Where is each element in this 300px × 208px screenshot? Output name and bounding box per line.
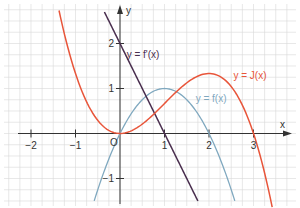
x-tick-label: −1 bbox=[70, 140, 82, 151]
x-tick-label: 1 bbox=[162, 140, 168, 151]
curves bbox=[59, 10, 272, 207]
label-f: y = f(x) bbox=[196, 93, 227, 104]
curve-j bbox=[59, 10, 272, 207]
x-axis-label: x bbox=[280, 119, 285, 130]
curve-f-prime bbox=[104, 12, 197, 201]
x-tick-label: 2 bbox=[206, 140, 212, 151]
y-tick-label: −1 bbox=[103, 173, 115, 184]
y-axis-label: y bbox=[126, 5, 131, 16]
y-tick-label: 1 bbox=[108, 83, 114, 94]
function-graph: −2−1123−112Oxyy = f'(x)y = J(x)y = f(x) bbox=[0, 0, 300, 208]
label-j: y = J(x) bbox=[233, 70, 266, 81]
y-tick-label: 2 bbox=[108, 38, 114, 49]
x-axis-arrow-icon bbox=[283, 131, 292, 137]
label-f-prime: y = f'(x) bbox=[127, 49, 160, 60]
x-tick-label: −2 bbox=[25, 140, 37, 151]
origin-label: O bbox=[110, 137, 118, 148]
axes bbox=[18, 5, 292, 204]
x-tick-label: 3 bbox=[251, 140, 257, 151]
